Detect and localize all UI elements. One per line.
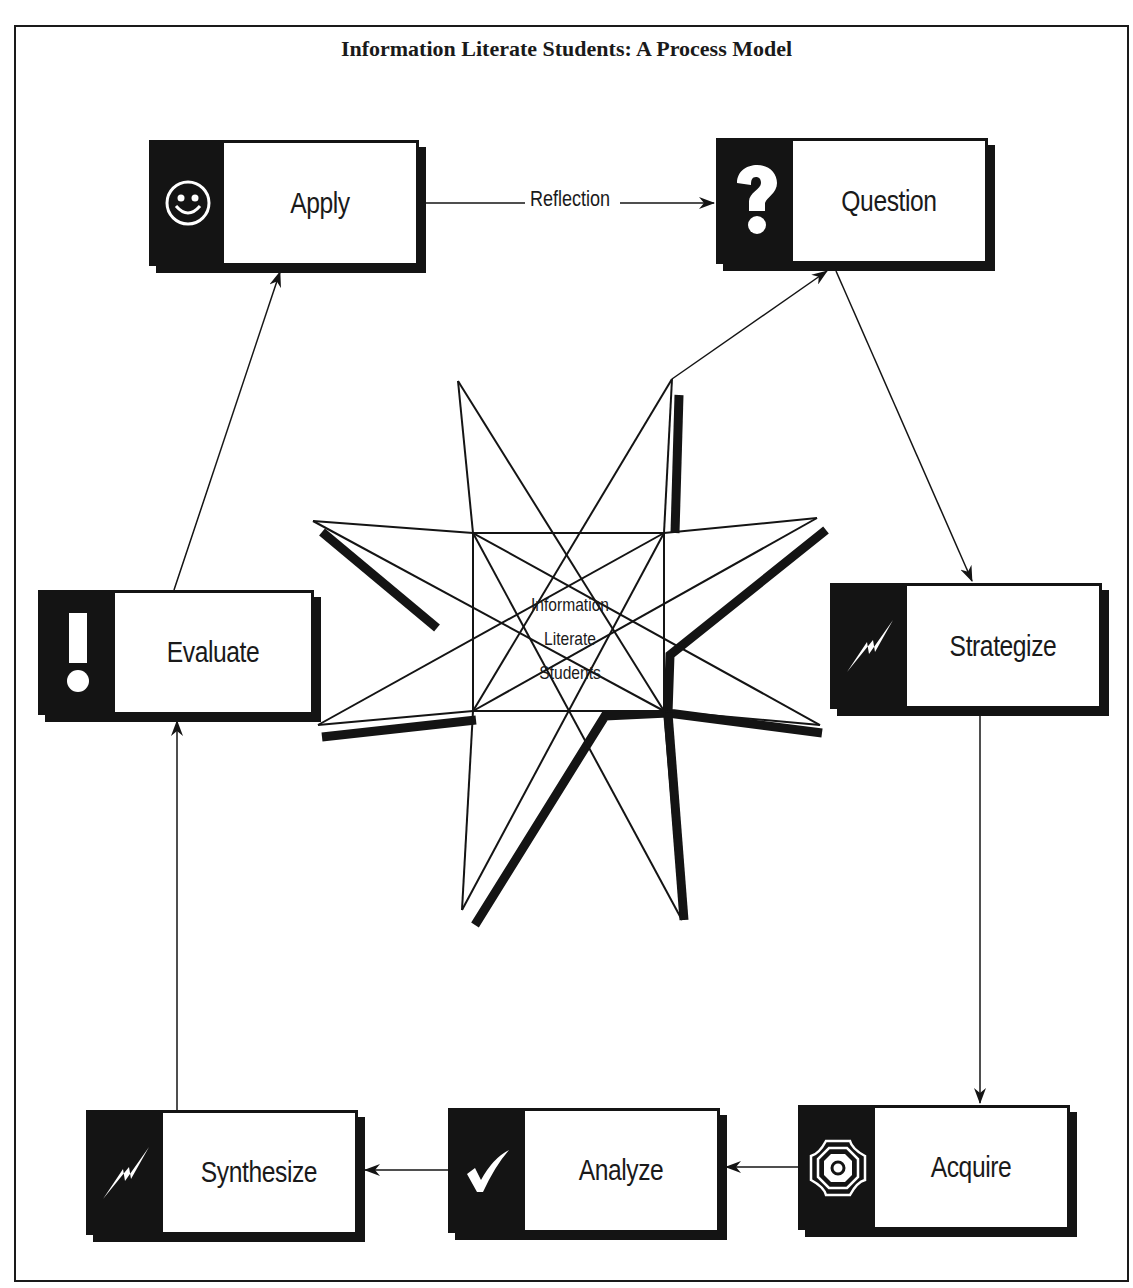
node-icon-panel <box>41 593 115 712</box>
checkmark-icon <box>465 1148 511 1194</box>
node-icon-panel <box>451 1111 525 1230</box>
arrow-question-to-strategize <box>836 271 972 581</box>
node-evaluate: Evaluate <box>38 590 314 715</box>
node-analyze: Analyze <box>448 1108 720 1233</box>
center-label: Information Literate Students <box>529 588 611 690</box>
node-label: Acquire <box>889 1108 1052 1227</box>
node-label: Evaluate <box>130 593 297 712</box>
octagon-target-icon <box>809 1139 867 1197</box>
node-icon-panel <box>89 1113 163 1232</box>
arrow-evaluate-to-apply <box>174 272 280 590</box>
node-icon-panel <box>719 141 793 261</box>
node-label: Analyze <box>539 1111 702 1230</box>
node-label: Apply <box>238 143 401 263</box>
question-mark-icon <box>733 165 779 237</box>
node-icon-panel <box>801 1108 875 1227</box>
smiley-face-icon <box>163 178 213 228</box>
center-label-line2: Literate <box>529 622 611 656</box>
edge-label-reflection: Reflection <box>525 186 615 212</box>
node-icon-panel <box>833 586 907 706</box>
node-label: Strategize <box>921 586 1084 706</box>
arrow-center-to-question <box>672 271 827 379</box>
node-label: Question <box>807 141 970 261</box>
lightning-bolt-icon <box>845 620 895 672</box>
node-strategize: Strategize <box>830 583 1102 709</box>
node-apply: Apply <box>149 140 419 266</box>
center-label-line3: Students <box>529 656 611 690</box>
exclamation-mark-icon <box>66 613 90 693</box>
node-question: Question <box>716 138 988 264</box>
node-acquire: Acquire <box>798 1105 1070 1230</box>
node-icon-panel <box>152 143 224 263</box>
node-synthesize: Synthesize <box>86 1110 358 1235</box>
center-label-line1: Information <box>529 588 611 622</box>
lightning-bolt-icon <box>101 1147 151 1199</box>
node-label: Synthesize <box>177 1113 340 1232</box>
